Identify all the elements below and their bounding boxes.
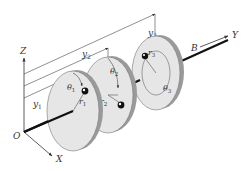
z-axis-label: Z bbox=[19, 46, 27, 56]
shaft-disk-diagram: Z X O y3 y2 y1 r3 θ3 bbox=[0, 0, 252, 171]
mass-1 bbox=[82, 88, 89, 95]
bearing-label: B bbox=[190, 43, 198, 53]
x-axis-label: X bbox=[55, 154, 63, 164]
z-axis: Z bbox=[19, 46, 27, 132]
dim-y2-label: y2 bbox=[81, 49, 91, 60]
y-axis: B Y bbox=[190, 30, 239, 53]
dim-y1-label: y1 bbox=[32, 99, 42, 110]
disk-3: r3 θ3 bbox=[132, 35, 184, 110]
mass-2 bbox=[118, 102, 125, 109]
disk-1: θ1 r1 bbox=[47, 70, 103, 151]
origin-label: O bbox=[13, 131, 21, 141]
y-axis-label: Y bbox=[232, 30, 239, 40]
